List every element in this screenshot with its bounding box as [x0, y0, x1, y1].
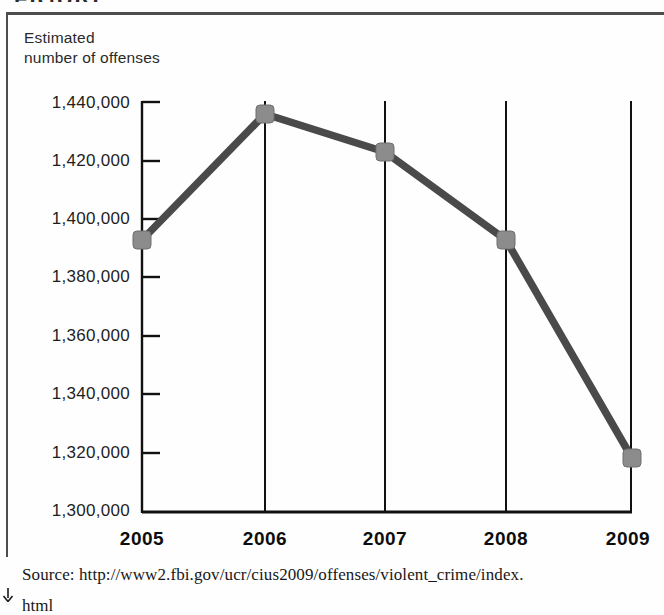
- figure-page: FIGURE Estimatednumber of offenses 1,440…: [0, 0, 664, 615]
- y-axis-ticks: [142, 102, 160, 453]
- x-tick-label-2005: 2005: [87, 528, 197, 550]
- scan-arrow-icon: [2, 588, 14, 602]
- plot-area: [0, 0, 664, 560]
- data-point-markers: [133, 105, 641, 467]
- x-tick-label-2007: 2007: [330, 528, 440, 550]
- data-point-2008: [497, 231, 515, 249]
- x-tick-label-2006: 2006: [210, 528, 320, 550]
- line-chart: 1,440,000 1,420,000 1,400,000 1,380,000 …: [0, 0, 664, 560]
- data-point-2009: [623, 449, 641, 467]
- source-caption-continuation: html: [22, 596, 53, 613]
- data-point-2005: [133, 231, 151, 249]
- source-caption: Source: http://www2.fbi.gov/ucr/cius2009…: [22, 564, 662, 586]
- data-point-2007: [376, 143, 394, 161]
- x-tick-label-2008: 2008: [451, 528, 561, 550]
- data-point-2006: [256, 105, 274, 123]
- vertical-gridlines: [265, 101, 631, 512]
- data-line-violent-crime: [142, 114, 632, 458]
- x-tick-label-2009: 2009: [573, 528, 664, 550]
